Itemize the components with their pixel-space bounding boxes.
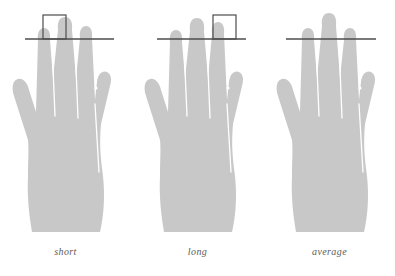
left-hand-silhouette [277, 13, 375, 232]
panel-long: long [132, 0, 263, 276]
hand-figure-short [0, 0, 131, 240]
palm-highlight-dot [358, 86, 361, 89]
panel-short: short [0, 0, 131, 276]
caption-average: average [264, 246, 395, 257]
finger-length-diagram: short long [0, 0, 395, 276]
left-hand-silhouette [13, 17, 111, 232]
left-hand-silhouette [145, 18, 243, 232]
hand-figure-average [264, 0, 395, 240]
palm-highlight-dot [94, 86, 97, 89]
hand-figure-long [132, 0, 263, 240]
caption-short: short [0, 246, 131, 257]
panel-average: average [264, 0, 395, 276]
palm-highlight-dot [226, 86, 229, 89]
caption-long: long [132, 246, 263, 257]
